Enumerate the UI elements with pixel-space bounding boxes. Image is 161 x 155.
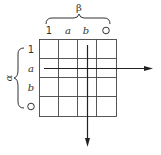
- column-header-b: b: [83, 25, 89, 36]
- top-brace: [46, 14, 110, 24]
- column-header-o-circle: [103, 27, 110, 34]
- grid: [40, 40, 117, 117]
- column-header-a: a: [65, 25, 71, 36]
- row-header-a: a: [28, 63, 34, 74]
- arrow-down-icon: [85, 138, 90, 147]
- column-header-1: 1: [46, 25, 52, 36]
- left-brace-label: α: [3, 74, 14, 81]
- row-header-b: b: [28, 82, 34, 93]
- row-header-o-circle: [28, 103, 35, 110]
- arrow-right-icon: [144, 66, 153, 71]
- row-header-1: 1: [28, 44, 34, 55]
- matrix-diagram: β 1 a b α 1 a b: [0, 0, 161, 155]
- horizontal-arrow: [44, 66, 153, 71]
- vertical-arrow: [85, 45, 90, 147]
- left-brace: [14, 48, 24, 108]
- top-brace-label: β: [76, 2, 82, 13]
